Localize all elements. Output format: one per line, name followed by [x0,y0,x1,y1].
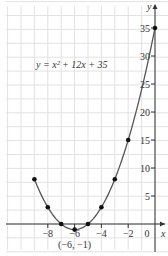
svg-text:−2: −2 [123,228,134,239]
svg-text:35: 35 [140,23,150,34]
data-point [32,177,37,182]
y-axis-label: y [146,1,152,12]
svg-text:15: 15 [140,135,150,146]
svg-text:10: 10 [140,163,150,174]
vertex-annotation: (−6, −1) [58,239,91,251]
x-axis-label: x [160,228,166,239]
svg-text:5: 5 [145,191,150,202]
svg-text:−4: −4 [96,228,107,239]
data-point [99,205,104,210]
tick-labels: −8−6−4−205101520253035 [42,23,155,240]
equation-label: y = x² + 12x + 35 [35,59,108,70]
data-point [46,205,51,210]
svg-text:0: 0 [145,228,150,239]
data-point [72,227,77,232]
data-points [32,26,157,232]
svg-text:20: 20 [140,107,150,118]
grid-lines [6,2,168,252]
parabola-chart: −8−6−4−205101520253035 y = x² + 12x + 35… [0,0,168,256]
data-point [113,177,118,182]
data-point [86,222,91,227]
plot-area: −8−6−4−205101520253035 y = x² + 12x + 35… [0,0,168,256]
data-point [126,138,131,143]
data-point [153,26,158,31]
data-point [59,222,64,227]
svg-text:−8: −8 [42,228,53,239]
